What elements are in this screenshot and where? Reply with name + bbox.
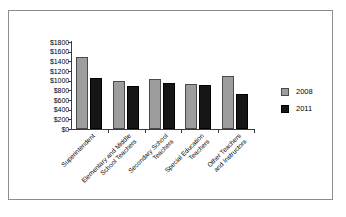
chart-frame: $1800$1600$1400$1200$1000$800$600$400$20… — [8, 10, 333, 200]
legend-label: 2011 — [296, 104, 312, 113]
chart-figure: $1800$1600$1400$1200$1000$800$600$400$20… — [0, 0, 346, 217]
bar-2011-2[interactable] — [127, 86, 139, 130]
y-axis-tick-label: $1000 — [25, 77, 69, 84]
x-axis-tick-mark — [218, 130, 219, 133]
y-axis-tick-mark — [68, 71, 71, 72]
bar-group — [185, 42, 211, 129]
bar-group — [149, 42, 175, 129]
plot-area — [72, 42, 254, 129]
y-axis-tick-label: $1800 — [25, 39, 69, 46]
y-axis-tick-mark — [68, 90, 71, 91]
y-axis-tick-mark — [68, 52, 71, 53]
x-axis-tick-mark — [181, 130, 182, 133]
y-axis-tick-label: $800 — [25, 87, 69, 94]
y-axis-tick-mark — [68, 129, 71, 130]
chart-legend: 20082011 — [281, 85, 337, 119]
y-axis-tick-label: $0 — [25, 126, 69, 133]
x-axis-line — [71, 129, 255, 130]
bar-2011-1[interactable] — [90, 78, 102, 129]
y-axis-tick-mark — [68, 100, 71, 101]
x-axis-label-line: Superintendent — [0, 132, 96, 217]
y-axis-tick-mark — [68, 119, 71, 120]
bar-2011-5[interactable] — [236, 94, 248, 129]
x-axis-tick-mark — [108, 130, 109, 133]
bar-2011-4[interactable] — [199, 85, 211, 129]
bar-2008-2[interactable] — [113, 81, 125, 129]
legend-label: 2008 — [296, 87, 313, 96]
bar-2008-4[interactable] — [185, 84, 197, 129]
bar-2011-3[interactable] — [163, 83, 175, 129]
y-axis-tick-labels: $1800$1600$1400$1200$1000$800$600$400$20… — [25, 37, 69, 133]
legend-item-2008[interactable]: 2008 — [281, 85, 337, 102]
legend-swatch-icon — [281, 88, 289, 96]
y-axis-tick-mark — [68, 61, 71, 62]
y-axis-tick-label: $400 — [25, 106, 69, 113]
bar-2008-5[interactable] — [222, 76, 234, 129]
bar-group — [222, 42, 248, 129]
bar-2008-1[interactable] — [76, 57, 88, 130]
legend-item-2011[interactable]: 2011 — [281, 102, 337, 119]
x-axis-tick-mark — [254, 130, 255, 133]
y-axis-tick-label: $600 — [25, 97, 69, 104]
y-axis-tick-label: $200 — [25, 116, 69, 123]
x-axis-tick-mark — [145, 130, 146, 133]
x-axis-label-1: Superintendent — [0, 132, 96, 217]
y-axis-tick-label: $1600 — [25, 48, 69, 55]
bar-group — [113, 42, 139, 129]
bar-group — [76, 42, 102, 129]
legend-swatch-icon — [281, 105, 289, 113]
y-axis-tick-mark — [68, 42, 71, 43]
y-axis-tick-mark — [68, 110, 71, 111]
bar-2008-3[interactable] — [149, 79, 161, 129]
y-axis-tick-label: $1400 — [25, 58, 69, 65]
y-axis-tick-mark — [68, 81, 71, 82]
y-axis-tick-label: $1200 — [25, 68, 69, 75]
